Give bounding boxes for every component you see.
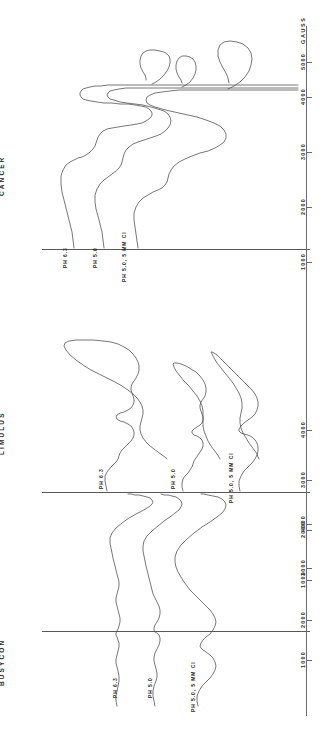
- axis-tick-label-busycon-3000: 3000: [300, 559, 306, 576]
- axis-tick-label-busycon-4000: 4000: [300, 515, 306, 532]
- axis-tick-2000: [306, 207, 312, 208]
- axis-tick-label-limulus-4000: 4000: [300, 421, 306, 438]
- axis-tick-4000: [306, 97, 312, 98]
- trace-busycon-ph50cl: [175, 494, 226, 706]
- axis-tick-label-5000: 5000: [300, 53, 306, 70]
- axis-tick-limulus-1000: [306, 580, 312, 581]
- axis-tick-busycon-4000: [306, 524, 312, 525]
- trace-limulus-ph50cl: [211, 352, 259, 491]
- panel-cancer: CANCER PH 6.3 PH 5.0 PH 5.0, 5 MM Cl: [0, 0, 333, 250]
- trace-cancer-ph50-cl: [134, 90, 298, 248]
- trace-cancer-ph63: [61, 85, 298, 248]
- trace-cancer-ph50-high: [176, 56, 196, 87]
- axis-tick-busycon-2000: [306, 620, 312, 621]
- axis-tick-busycon-3000: [306, 568, 312, 569]
- axis-tick-label-1000: 1000: [300, 253, 306, 270]
- trace-busycon-ph50: [143, 494, 182, 706]
- panel-busycon: BUSYCON PH 6.3 PH 5.0 PH 5.0, 5 MM Cl: [0, 493, 333, 738]
- axis-tick-1000: [306, 262, 312, 263]
- trace-cancer-ph50: [95, 88, 298, 248]
- panel-limulus: LIMULUS PH 6.3 PH 5.0 PH 5.0, 5 MM Cl: [0, 250, 333, 493]
- trace-cancer-ph50cl-high: [218, 41, 252, 89]
- trace-cancer-ph63-high: [140, 50, 170, 84]
- axis-tick-label-limulus-3000: 3000: [300, 471, 306, 488]
- axis-tick-busycon-1000: [306, 660, 312, 661]
- axis-tick-limulus-2000: [306, 530, 312, 531]
- axis-tick-label-4000: 4000: [300, 88, 306, 105]
- epr-spectra-figure: CANCER PH 6.3 PH 5.0 PH 5.0, 5 MM Cl LIM…: [0, 0, 333, 738]
- trace-limulus-ph50: [173, 363, 220, 491]
- gauss-axis-line: [306, 26, 307, 716]
- axis-tick-label-busycon-2000: 2000: [300, 611, 306, 628]
- axis-tick-label-busycon-1000: 1000: [300, 651, 306, 668]
- axis-tick-label-3000: 3000: [300, 143, 306, 160]
- trace-limulus-ph63: [64, 340, 167, 491]
- axis-tick-label-2000: 2000: [300, 198, 306, 215]
- axis-title-gauss: GAUSS: [300, 16, 306, 44]
- axis-tick-limulus-4000: [306, 430, 312, 431]
- axis-tick-5000: [306, 62, 312, 63]
- axis-tick-limulus-3000: [306, 480, 312, 481]
- axis-tick-3000: [306, 152, 312, 153]
- trace-busycon-ph63: [110, 494, 153, 706]
